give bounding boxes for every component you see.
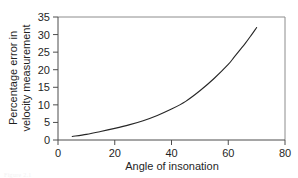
x-tick-label: 20 xyxy=(109,147,121,159)
x-axis-ticks xyxy=(58,140,285,145)
x-tick-label: 0 xyxy=(55,147,61,159)
y-tick-label: 0 xyxy=(44,134,50,146)
data-series-group xyxy=(72,28,256,137)
y-tick-label: 35 xyxy=(38,11,50,23)
y-axis-label-line2: velocity measurement xyxy=(20,25,32,132)
x-axis: 020406080 xyxy=(55,140,291,159)
y-axis: 05101520253035 xyxy=(38,11,58,146)
y-tick-label: 30 xyxy=(38,29,50,41)
y-axis-label-line1: Percentage error in xyxy=(7,31,19,125)
x-tick-label: 80 xyxy=(279,147,291,159)
x-tick-label: 60 xyxy=(222,147,234,159)
y-tick-label: 5 xyxy=(44,116,50,128)
y-axis-tick-labels: 05101520253035 xyxy=(38,11,50,146)
y-axis-ticks xyxy=(53,17,58,140)
y-tick-label: 15 xyxy=(38,81,50,93)
x-axis-label: Angle of insonation xyxy=(125,160,219,172)
y-tick-label: 10 xyxy=(38,99,50,111)
y-tick-label: 25 xyxy=(38,46,50,58)
series-line-percentage-error xyxy=(72,28,256,137)
chart-plot: 05101520253035 020406080 Angle of insona… xyxy=(0,0,298,178)
x-tick-label: 40 xyxy=(165,147,177,159)
caption-fragment: Figure 2.1 xyxy=(4,172,32,178)
figure-container: 05101520253035 020406080 Angle of insona… xyxy=(0,0,298,178)
x-axis-tick-labels: 020406080 xyxy=(55,147,291,159)
y-tick-label: 20 xyxy=(38,64,50,76)
